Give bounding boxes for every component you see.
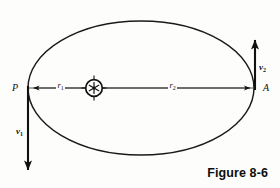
radius-r2-subscript: 2: [173, 85, 176, 91]
velocity-v2-subscript: 2: [263, 67, 266, 73]
radius-r1-subscript: 1: [61, 85, 64, 91]
radius-r2-label: r2: [168, 81, 177, 91]
figure-8-6: P A r1 r2 v1 v2 Figure 8-6: [0, 0, 280, 188]
velocity-v1-label: v1: [16, 127, 23, 137]
orbit-diagram-canvas: [0, 0, 280, 188]
sun-symbol-icon: [82, 76, 107, 101]
aphelion-point-label: A: [263, 83, 269, 93]
radius-r1-label: r1: [56, 81, 65, 91]
velocity-v1-subscript: 1: [20, 131, 23, 137]
perihelion-point-label: P: [12, 83, 18, 93]
velocity-v2-label: v2: [259, 63, 266, 73]
figure-caption: Figure 8-6: [207, 166, 268, 180]
